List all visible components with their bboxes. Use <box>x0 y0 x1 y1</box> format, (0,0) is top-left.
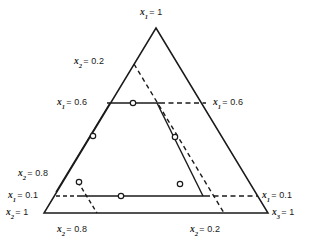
design-point-marker[interactable] <box>118 193 123 198</box>
label-x1-0.6-right: x1= 0.6 <box>213 98 243 109</box>
label-sub: 2 <box>11 213 14 220</box>
constraint-line-x2-0.8 <box>78 182 97 213</box>
label-x2-0.8-bottom: x2= 0.8 <box>57 225 87 236</box>
label-sub: 3 <box>277 213 280 220</box>
label-x1-0.1-right: x1= 0.1 <box>262 191 292 202</box>
design-point-marker[interactable] <box>90 133 95 138</box>
label-eq: = 1 <box>14 207 28 217</box>
label-sub: 2 <box>79 62 82 69</box>
label-sub: 2 <box>62 230 65 237</box>
inner-region-left-edge <box>56 103 110 192</box>
label-x3-1-bottom-right: x3= 1 <box>272 208 294 219</box>
design-point-marker[interactable] <box>76 179 81 184</box>
design-point-marker-centroid[interactable] <box>177 181 182 186</box>
label-eq: = 1 <box>280 207 294 217</box>
label-x1-0.6-left: x1= 0.6 <box>57 98 87 109</box>
label-x2-0.8-left: x2= 0.8 <box>18 169 48 180</box>
design-point-marker[interactable] <box>172 134 177 139</box>
label-apex-x1-1: x1= 1 <box>140 8 162 19</box>
label-sub: 2 <box>195 230 198 237</box>
ternary-simplex-figure: x1= 1 x2= 0.2 x1= 0.6 x1= 0.6 x2= 0.8 x1… <box>0 0 314 244</box>
label-sub: 2 <box>23 174 26 181</box>
label-sub: 1 <box>62 103 65 110</box>
label-eq: = 0.8 <box>65 224 87 234</box>
x2-0.2-dashed-line <box>134 64 224 213</box>
label-sub: 1 <box>218 103 221 110</box>
constraint-line-x2-0.2 <box>134 64 224 213</box>
label-x2-0.2-bottom: x2= 0.2 <box>190 225 220 236</box>
design-point-markers-group <box>76 100 182 198</box>
x2-0.8-dashed-line <box>78 182 97 213</box>
label-eq: = 0.6 <box>65 97 87 107</box>
label-eq: = 0.8 <box>26 168 48 178</box>
label-eq: = 0.2 <box>82 56 104 66</box>
label-sub: 1 <box>13 196 16 203</box>
label-eq: = 0.2 <box>198 224 220 234</box>
label-sub: 1 <box>267 196 270 203</box>
label-eq: = 0.1 <box>16 190 38 200</box>
ternary-plot-svg <box>0 0 314 244</box>
label-eq: = 0.1 <box>270 190 292 200</box>
label-eq: = 1 <box>148 7 162 17</box>
label-sub: 1 <box>145 13 148 20</box>
label-x1-0.1-left: x1= 0.1 <box>8 191 38 202</box>
label-x2-0.2-upper-left: x2= 0.2 <box>74 57 104 68</box>
label-x2-1-bottom-left: x2= 1 <box>6 208 28 219</box>
design-point-marker[interactable] <box>130 100 135 105</box>
label-eq: = 0.6 <box>221 97 243 107</box>
